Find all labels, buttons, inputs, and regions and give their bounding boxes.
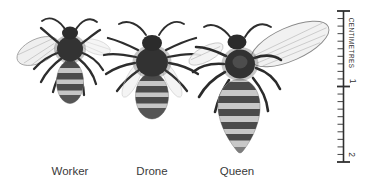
ruler-tick-label-1: 1 bbox=[348, 79, 358, 84]
queen-bee-illustration bbox=[186, 12, 335, 154]
drone-leg bbox=[166, 38, 196, 50]
drone-head bbox=[142, 35, 162, 51]
worker-antenna bbox=[75, 19, 97, 31]
queen-right-wing bbox=[245, 12, 335, 76]
drone-bee-illustration bbox=[104, 22, 200, 120]
worker-bee-illustration bbox=[13, 18, 113, 105]
worker-abdomen bbox=[54, 60, 87, 105]
worker-antenna bbox=[42, 18, 66, 31]
queen-antenna bbox=[204, 25, 231, 38]
ruler-tick-label-2: 2 bbox=[347, 152, 357, 157]
queen-label: Queen bbox=[220, 165, 255, 177]
queen-abdomen bbox=[214, 79, 264, 154]
drone-leg bbox=[104, 54, 136, 57]
worker-label: Worker bbox=[52, 165, 89, 177]
drone-antenna bbox=[119, 22, 146, 35]
queen-thorax-highlight bbox=[233, 56, 248, 69]
ruler-unit-label: CENTIMETRES bbox=[348, 18, 355, 69]
drone-antenna bbox=[159, 22, 184, 35]
ruler: CENTIMETRES 1 2 bbox=[337, 11, 358, 162]
drone-thorax bbox=[136, 48, 168, 77]
drone-leg bbox=[108, 38, 138, 50]
queen-antenna bbox=[245, 24, 271, 37]
worker-thorax bbox=[57, 37, 83, 62]
bee-size-comparison-figure: CENTIMETRES 1 2 Worker Drone Queen bbox=[0, 0, 376, 196]
drone-label: Drone bbox=[136, 165, 167, 177]
bee-figure-canvas: CENTIMETRES 1 2 Worker Drone Queen bbox=[0, 0, 376, 196]
